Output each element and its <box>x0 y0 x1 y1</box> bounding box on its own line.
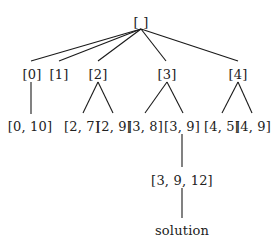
tree-node-n3_8: [3, 8] <box>127 120 163 133</box>
edge-n2-n2_7 <box>83 82 98 113</box>
tree-node-n2: [2] <box>88 68 107 81</box>
tree-node-n3: [3] <box>157 68 176 81</box>
edge-root-n3 <box>141 29 166 61</box>
tree-node-n3_9: [3, 9] <box>164 120 200 133</box>
tree-node-n0: [0] <box>22 68 41 81</box>
edge-n3-n3_9 <box>167 82 183 113</box>
tree-node-n4_9: [4, 9] <box>235 120 271 133</box>
tree-node-n2_7: [2, 7] <box>64 120 100 133</box>
edge-n4-n4_9 <box>238 82 252 113</box>
tree-node-n3_9_12: [3, 9, 12] <box>151 174 213 187</box>
tree-node-n4: [4] <box>228 68 247 81</box>
edge-n4-n4_5 <box>222 82 238 113</box>
edge-root-n4 <box>141 29 238 61</box>
tree-node-root: [ ] <box>134 16 149 29</box>
edge-n3-n3_8 <box>145 82 167 113</box>
edge-root-n2 <box>98 29 141 61</box>
tree-node-n0_10: [0, 10] <box>8 120 53 133</box>
tree-node-n1: [1] <box>49 68 68 81</box>
edge-n2-n2_9 <box>98 82 113 113</box>
edge-root-n1 <box>59 29 141 61</box>
edge-root-n0 <box>31 29 141 61</box>
tree-node-solution: solution <box>155 224 209 237</box>
